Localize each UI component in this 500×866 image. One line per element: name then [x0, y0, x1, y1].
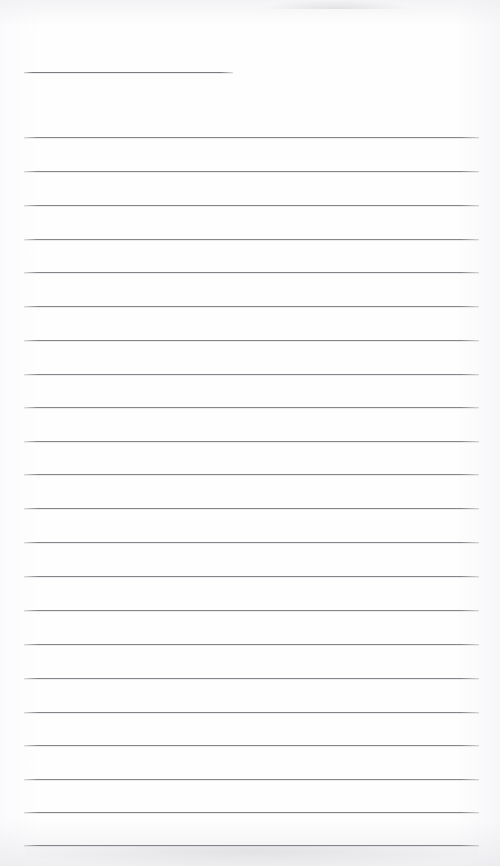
body-rule-18	[24, 712, 479, 713]
scanned-page	[0, 0, 500, 866]
body-rule-16	[24, 644, 479, 645]
body-rule-11	[24, 474, 479, 475]
body-rule-22	[24, 845, 479, 846]
top-scan-smudge	[262, 0, 412, 9]
body-rule-7	[24, 340, 479, 341]
body-rule-15	[24, 610, 479, 611]
body-rule-17	[24, 678, 479, 679]
body-rule-12	[24, 508, 479, 509]
header-rule	[24, 72, 233, 73]
body-rule-9	[24, 407, 479, 408]
body-rule-4	[24, 239, 479, 240]
body-rule-10	[24, 441, 479, 442]
body-rule-6	[24, 306, 479, 307]
paper-tone-overlay	[0, 0, 500, 866]
bottom-scan-smudge	[26, 845, 478, 866]
body-rule-8	[24, 374, 479, 375]
body-rule-20	[24, 779, 479, 780]
body-rule-21	[24, 812, 479, 813]
body-rule-14	[24, 576, 479, 577]
body-rule-5	[24, 272, 479, 273]
body-rule-19	[24, 745, 479, 746]
body-rule-13	[24, 542, 479, 543]
body-rule-2	[24, 171, 479, 172]
body-rule-3	[24, 205, 479, 206]
body-rule-1	[24, 137, 479, 138]
